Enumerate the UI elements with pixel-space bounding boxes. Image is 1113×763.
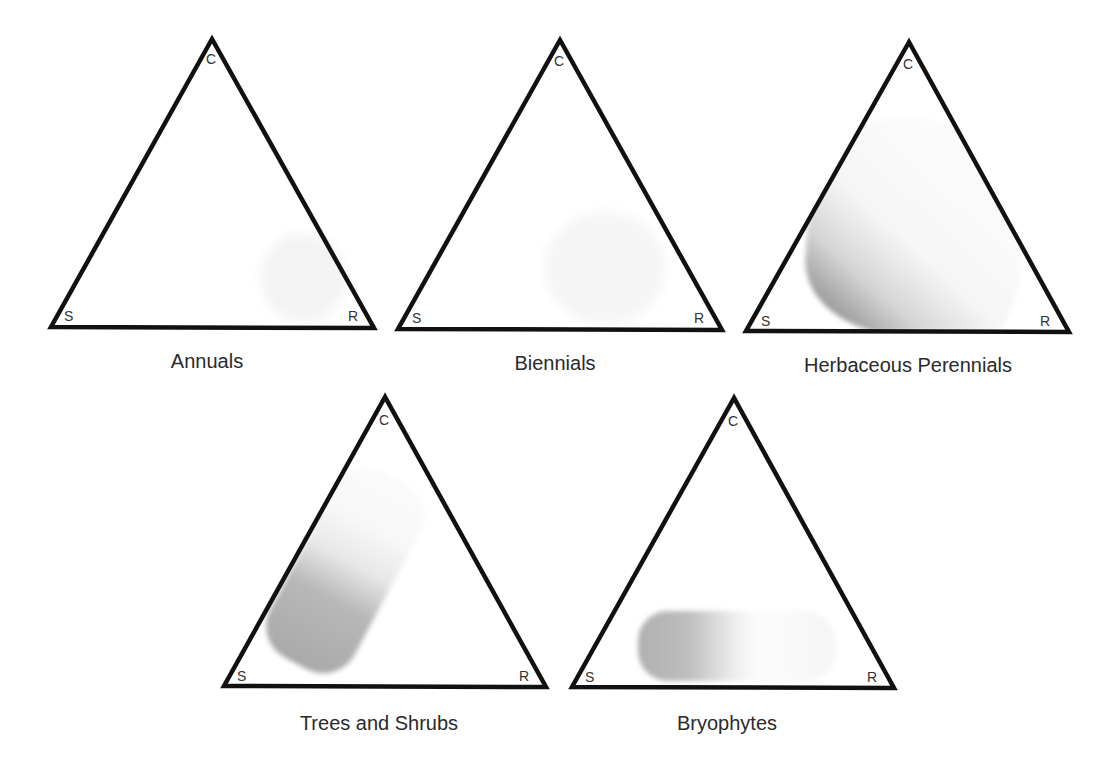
vertex-label-c: C <box>903 56 913 72</box>
vertex-label-s: S <box>761 313 770 329</box>
panel-herbaceous: C S R Herbaceous Perennials <box>746 42 1069 376</box>
vertex-label-s: S <box>64 308 73 324</box>
shaded-region <box>805 118 1023 332</box>
vertex-label-c: C <box>728 413 738 429</box>
panel-caption: Herbaceous Perennials <box>804 354 1012 376</box>
panel-caption: Biennials <box>514 352 595 374</box>
vertex-label-r: R <box>519 668 529 684</box>
panel-biennials: C S R Biennials <box>398 40 722 374</box>
vertex-label-c: C <box>554 53 564 69</box>
csr-figure: C S R Annuals C S R Biennials C S R Herb… <box>0 0 1113 763</box>
vertex-label-r: R <box>694 310 704 326</box>
panel-annuals: C S R Annuals <box>51 39 374 372</box>
vertex-label-s: S <box>237 668 246 684</box>
vertex-label-r: R <box>348 308 358 324</box>
panel-trees: C S R Trees and Shrubs <box>224 397 546 734</box>
shaded-region <box>253 456 436 686</box>
vertex-label-s: S <box>412 310 421 326</box>
panel-bryophytes: C S R Bryophytes <box>572 398 894 734</box>
shaded-region <box>261 234 345 322</box>
vertex-label-s: S <box>585 669 594 685</box>
shaded-region <box>638 611 836 681</box>
vertex-label-c: C <box>206 51 216 67</box>
vertex-label-r: R <box>1040 313 1050 329</box>
panel-caption: Bryophytes <box>677 712 777 734</box>
shaded-region <box>545 212 665 324</box>
vertex-label-c: C <box>379 412 389 428</box>
panel-caption: Annuals <box>171 350 243 372</box>
vertex-label-r: R <box>867 669 877 685</box>
panel-caption: Trees and Shrubs <box>300 712 458 734</box>
